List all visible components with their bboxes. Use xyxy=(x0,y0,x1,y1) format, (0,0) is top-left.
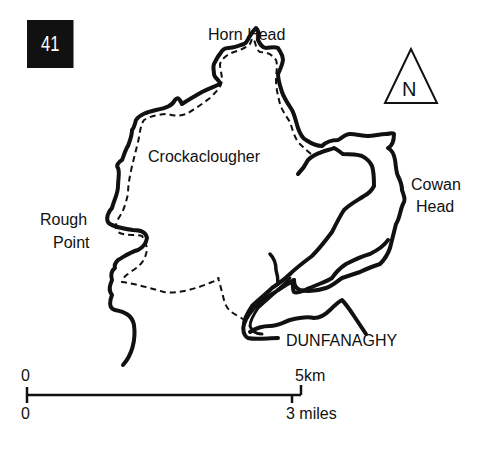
place-cowan-head-line1: Cowan xyxy=(411,176,461,194)
scale-miles-end: 3 miles xyxy=(286,405,337,423)
place-dunfanaghy: DUNFANAGHY xyxy=(286,332,397,350)
inner-lough xyxy=(244,148,374,324)
north-label: N xyxy=(402,80,416,98)
place-rough-point-line1: Rough xyxy=(40,211,87,229)
inlet xyxy=(270,254,278,284)
place-rough-point-line2: Point xyxy=(53,234,89,252)
scale-km-zero: 0 xyxy=(21,367,30,385)
scale-miles-zero: 0 xyxy=(21,405,30,423)
scale-bar xyxy=(27,385,301,403)
place-crockaclougher: Crockaclougher xyxy=(148,148,260,166)
place-cowan-head-line2: Head xyxy=(416,198,454,216)
south-shore xyxy=(250,300,366,334)
place-horn-head: Horn Head xyxy=(208,26,285,44)
scale-km-end: 5km xyxy=(295,367,325,385)
